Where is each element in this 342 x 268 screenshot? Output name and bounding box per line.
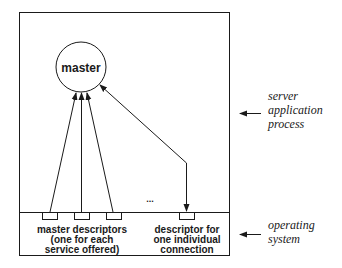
ellipsis: ... <box>146 194 154 204</box>
master-descriptor-box-2 <box>75 213 90 220</box>
os-label-1: operating <box>268 218 315 232</box>
arrow-connection-to-master <box>100 85 187 163</box>
os-label-2: system <box>268 232 300 246</box>
arrow-descriptor-1 <box>50 93 76 212</box>
individual-descriptor-box <box>180 213 195 220</box>
server-label-1: server <box>268 89 298 103</box>
arrow-descriptor-3 <box>87 93 113 212</box>
master-descriptor-box-3 <box>107 213 122 220</box>
server-label-3: process <box>267 117 305 131</box>
individual-descriptor-label-3: connection <box>160 244 213 255</box>
master-descriptors-label-3: service offered) <box>45 244 119 255</box>
diagram-canvas: master ... master descriptors (one for e… <box>0 0 342 268</box>
server-label-2: application <box>268 103 323 117</box>
master-label: master <box>61 61 101 75</box>
master-descriptor-box-1 <box>43 213 58 220</box>
